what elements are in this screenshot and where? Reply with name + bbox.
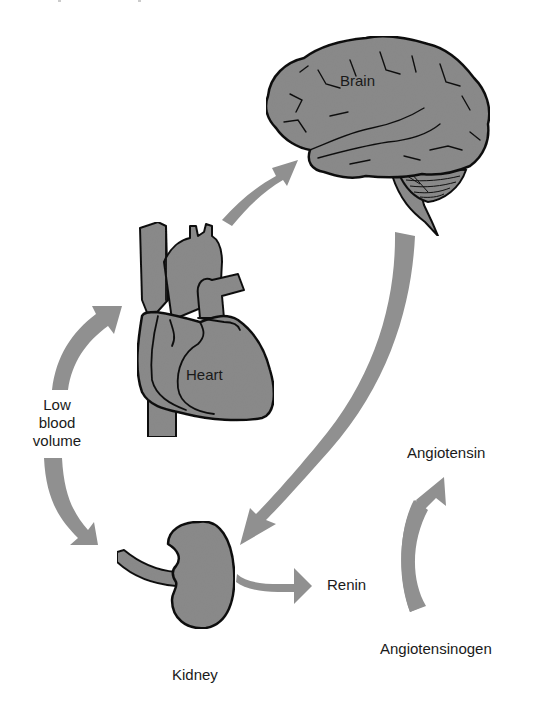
kidney-label: Kidney (172, 666, 218, 684)
low-blood-volume-line-2: blood (27, 414, 87, 432)
heart-illustration (137, 222, 273, 437)
arrow-low-volume-to-kidney (44, 458, 98, 545)
arrow-kidney-to-renin (236, 568, 312, 604)
low-blood-volume-label: Low blood volume (27, 396, 87, 450)
diagram-canvas (0, 0, 549, 709)
brain-illustration (266, 36, 489, 236)
arrow-angiotensinogen-to-angiotensin (401, 477, 446, 612)
low-blood-volume-line-3: volume (27, 432, 87, 450)
renin-label: Renin (327, 576, 366, 594)
angiotensin-label: Angiotensin (407, 444, 485, 462)
cropped-header-remnant (58, 0, 141, 2)
heart-label: Heart (186, 366, 223, 384)
brain-label: Brain (340, 72, 375, 90)
angiotensinogen-label: Angiotensinogen (380, 640, 492, 658)
low-blood-volume-line-1: Low (27, 396, 87, 414)
kidney-illustration (117, 522, 234, 629)
arrow-heart-to-brain (222, 160, 298, 226)
arrow-low-volume-to-heart (52, 306, 122, 390)
